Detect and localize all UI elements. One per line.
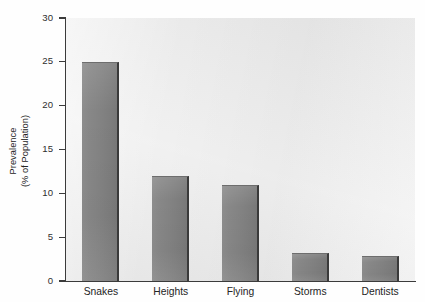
y-axis-tick-label: 20 xyxy=(42,100,53,110)
x-axis-label-heights: Heights xyxy=(136,286,206,298)
y-axis-tick xyxy=(59,61,66,62)
bar-shading xyxy=(362,257,397,281)
bar-snakes xyxy=(82,62,119,281)
y-axis-tick xyxy=(59,280,66,281)
y-axis-tick xyxy=(59,193,66,194)
y-axis-tick xyxy=(59,17,66,18)
bar-shading xyxy=(292,254,327,281)
x-axis-line xyxy=(65,281,416,282)
y-axis-tick xyxy=(59,237,66,238)
y-axis-tick xyxy=(59,105,66,106)
y-axis-title: Prevalence (% of Population) xyxy=(0,0,40,302)
y-axis-tick-label: 0 xyxy=(48,276,53,286)
y-axis-tick xyxy=(59,149,66,150)
bar-flying xyxy=(222,185,259,281)
x-axis-label-snakes: Snakes xyxy=(66,286,136,298)
y-axis-tick-label: 30 xyxy=(42,13,53,23)
bar-shading xyxy=(222,186,257,281)
y-axis-tick-label: 25 xyxy=(42,56,53,66)
y-axis-tick-label: 5 xyxy=(48,232,53,242)
bar-storms xyxy=(292,253,329,281)
x-axis-label-flying: Flying xyxy=(206,286,276,298)
y-axis-tick-label: 10 xyxy=(42,188,53,198)
y-axis-title-line-1: Prevalence xyxy=(8,115,20,187)
bar-dentists xyxy=(362,256,399,281)
bar-shading xyxy=(82,63,117,281)
x-axis-label-storms: Storms xyxy=(275,286,345,298)
bar-shading xyxy=(152,177,187,281)
bar-heights xyxy=(152,176,189,281)
bar-chart-figure: Prevalence (% of Population) 05101520253… xyxy=(0,0,425,302)
y-axis-title-line-2: (% of Population) xyxy=(20,115,32,187)
y-axis-tick-label: 15 xyxy=(42,144,53,154)
x-axis-label-dentists: Dentists xyxy=(345,286,415,298)
